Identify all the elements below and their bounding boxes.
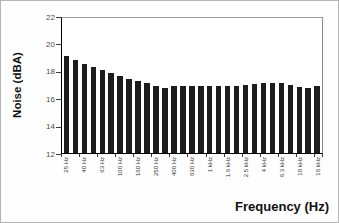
bar: [82, 64, 88, 153]
bar: [252, 84, 258, 153]
x-tick-label: 63 Hz: [98, 157, 106, 193]
x-tick-label: 25 Hz: [62, 157, 70, 193]
bar: [297, 87, 303, 153]
y-tick-mark: [56, 99, 61, 100]
x-tick-label: 630 Hz: [188, 157, 196, 193]
x-tick-label: 1 kHz: [206, 157, 214, 193]
figure: Noise (dBA) Frequency (Hz) 1214161820222…: [0, 0, 339, 223]
y-tick-mark: [56, 44, 61, 45]
bar: [64, 56, 70, 153]
x-tick-label: 2.5 kHz: [242, 157, 250, 193]
y-tick-mark: [56, 72, 61, 73]
bar: [314, 86, 320, 153]
y-tick-mark: [56, 127, 61, 128]
bar: [162, 88, 168, 153]
bar: [91, 67, 97, 153]
y-tick-label: 14: [31, 122, 55, 131]
x-tick-label: 16 kHz: [314, 157, 322, 193]
bar: [216, 86, 222, 154]
bar: [144, 83, 150, 153]
bar: [243, 85, 249, 153]
y-tick-label: 22: [31, 13, 55, 22]
x-tick-label: 1.6 kHz: [224, 157, 232, 193]
bar: [108, 73, 114, 153]
bar: [100, 70, 106, 153]
bar: [234, 86, 240, 154]
bar: [225, 86, 231, 154]
x-tick-mark: [322, 154, 323, 157]
y-tick-label: 18: [31, 67, 55, 76]
bar: [270, 83, 276, 153]
bar: [73, 60, 79, 153]
bar: [153, 86, 159, 154]
y-tick-mark: [56, 17, 61, 18]
bars-layer: [62, 18, 322, 153]
bar: [126, 79, 132, 153]
bar: [207, 86, 213, 154]
plot-area: [61, 17, 323, 154]
x-tick-label: 10 kHz: [296, 157, 304, 193]
bar: [189, 86, 195, 154]
x-tick-label: 160 Hz: [134, 157, 142, 193]
bar: [198, 86, 204, 154]
bar: [171, 86, 177, 154]
bar: [261, 83, 267, 153]
x-tick-label: 100 Hz: [116, 157, 124, 193]
bar: [305, 88, 311, 153]
y-axis-title: Noise (dBA): [11, 52, 23, 118]
x-tick-label: 6.3 kHz: [278, 157, 286, 193]
x-axis-title: Frequency (Hz): [235, 199, 329, 214]
y-tick-label: 16: [31, 95, 55, 104]
y-tick-label: 12: [31, 150, 55, 159]
x-tick-label: 4 kHz: [260, 157, 268, 193]
x-tick-label: 400 Hz: [170, 157, 178, 193]
bar: [288, 85, 294, 153]
bar: [135, 81, 141, 153]
bar: [279, 83, 285, 153]
bar: [180, 86, 186, 154]
y-tick-label: 20: [31, 40, 55, 49]
bar: [117, 76, 123, 153]
x-tick-label: 250 Hz: [152, 157, 160, 193]
x-tick-label: 40 Hz: [80, 157, 88, 193]
